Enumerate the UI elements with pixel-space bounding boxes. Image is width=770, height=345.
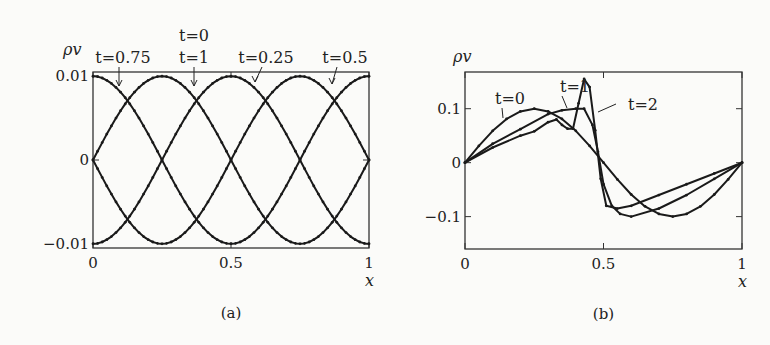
data-point: [119, 226, 122, 229]
data-point: [658, 194, 661, 197]
data-point: [262, 221, 265, 224]
data-point: [271, 91, 274, 94]
data-point: [326, 91, 329, 94]
data-point: [331, 221, 334, 224]
data-point: [594, 129, 597, 132]
data-point: [147, 238, 150, 241]
data-point: [308, 141, 311, 144]
data-point: [555, 118, 558, 121]
data-point: [533, 107, 536, 110]
data-point: [547, 110, 550, 113]
data-point: [151, 241, 154, 244]
data-point: [271, 226, 274, 229]
x-tick-label: 1: [737, 255, 747, 273]
data-point: [368, 242, 371, 245]
data-point: [335, 215, 338, 218]
data-point: [280, 193, 283, 196]
data-point: [142, 193, 145, 196]
data-point: [354, 79, 357, 82]
data-point: [115, 201, 118, 204]
data-point: [193, 96, 196, 99]
panel-a: 00.510.010−0.01xρv(a): [43, 40, 374, 322]
y-tick-label: 0: [451, 154, 461, 172]
data-point: [322, 201, 325, 204]
data-point: [630, 215, 633, 218]
data-point: [165, 242, 168, 245]
data-point: [588, 145, 591, 148]
data-point: [151, 77, 154, 80]
data-point: [574, 129, 577, 132]
data-point: [345, 201, 348, 204]
annotation-label: t=2: [628, 95, 658, 114]
data-point: [257, 109, 260, 112]
data-point: [211, 193, 214, 196]
data-point: [234, 167, 237, 170]
data-point: [464, 161, 467, 164]
data-point: [345, 117, 348, 120]
data-point: [358, 241, 361, 244]
data-point: [179, 193, 182, 196]
annotation-label: t=0.25: [238, 48, 293, 67]
annotation-arrow: [562, 96, 567, 108]
data-point: [230, 75, 233, 78]
data-point: [285, 184, 288, 187]
data-point: [727, 178, 730, 181]
data-point: [713, 172, 716, 175]
data-point: [358, 141, 361, 144]
data-point: [519, 134, 522, 137]
data-point: [179, 235, 182, 238]
y-tick-label: 0.01: [56, 67, 89, 85]
data-point: [345, 86, 348, 89]
data-point: [577, 102, 580, 105]
data-point: [317, 82, 320, 85]
data-point: [101, 176, 104, 179]
data-point: [124, 215, 127, 218]
data-point: [188, 109, 191, 112]
data-point: [368, 75, 371, 78]
data-point: [326, 226, 329, 229]
data-point: [156, 242, 159, 245]
data-point: [147, 79, 150, 82]
data-point: [262, 215, 265, 218]
data-point: [156, 75, 159, 78]
data-point: [619, 213, 622, 216]
data-point: [220, 141, 223, 144]
data-point: [491, 142, 494, 145]
data-point: [312, 184, 315, 187]
data-point: [262, 96, 265, 99]
data-point: [161, 242, 164, 245]
data-point: [124, 221, 127, 224]
data-point: [211, 235, 214, 238]
data-point: [477, 145, 480, 148]
data-point: [312, 79, 315, 82]
data-point: [225, 75, 228, 78]
data-point: [354, 133, 357, 136]
data-point: [138, 117, 141, 120]
data-point: [685, 183, 688, 186]
data-point: [303, 167, 306, 170]
data-point: [349, 125, 352, 128]
data-point: [119, 208, 122, 211]
data-point: [317, 235, 320, 238]
data-point: [207, 231, 210, 234]
data-point: [124, 96, 127, 99]
y-axis-label: ρv: [62, 40, 81, 59]
data-point: [257, 208, 260, 211]
data-point: [572, 127, 575, 130]
data-point: [239, 141, 242, 144]
x-tick-label: 0.5: [592, 255, 616, 273]
data-point: [128, 215, 131, 218]
data-point: [363, 167, 366, 170]
data-point: [248, 82, 251, 85]
data-point: [331, 96, 334, 99]
data-point: [133, 208, 136, 211]
data-point: [156, 150, 159, 153]
data-point: [248, 193, 251, 196]
y-tick-label: 0: [79, 151, 89, 169]
annotation-arrow: [598, 104, 616, 112]
data-point: [326, 109, 329, 112]
data-point: [202, 226, 205, 229]
data-point: [363, 242, 366, 245]
data-point: [128, 96, 131, 99]
data-point: [505, 118, 508, 121]
